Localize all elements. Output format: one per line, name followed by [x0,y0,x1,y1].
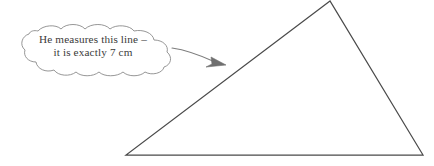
figure-canvas: He measures this line – it is exactly 7 … [0,0,434,166]
bubble-caption-line-2: it is exactly 7 cm [14,46,172,59]
pointer-arrow [172,48,226,67]
triangle-outline [126,1,423,155]
geometry-figure [0,0,434,166]
arrow-shaft [172,48,215,62]
bubble-caption: He measures this line – it is exactly 7 … [14,33,172,59]
triangle-shape [126,1,423,155]
arrow-head-icon [206,57,226,67]
bubble-caption-line-1: He measures this line – [39,33,147,45]
